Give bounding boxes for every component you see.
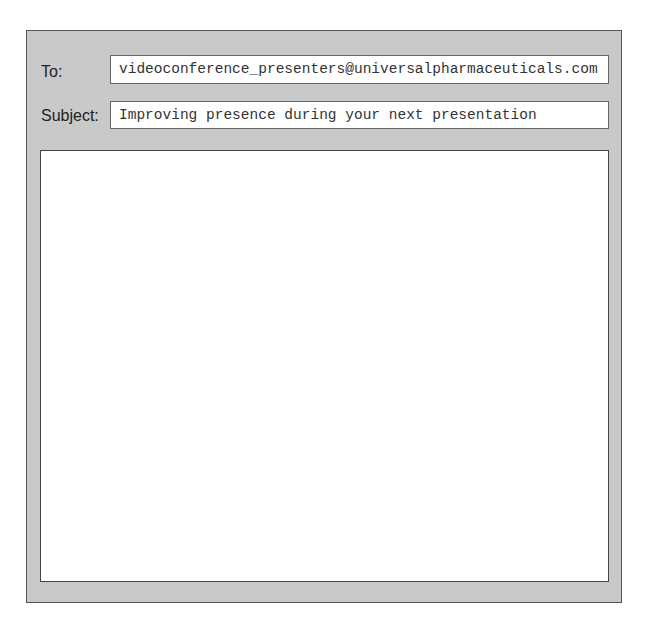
to-label: To: [41, 63, 62, 81]
email-compose-panel: To: videoconference_presenters@universal… [26, 30, 622, 603]
to-field[interactable]: videoconference_presenters@universalphar… [110, 55, 609, 84]
subject-field[interactable]: Improving presence during your next pres… [110, 101, 609, 129]
subject-label: Subject: [41, 107, 99, 125]
message-body-field[interactable] [40, 150, 609, 582]
